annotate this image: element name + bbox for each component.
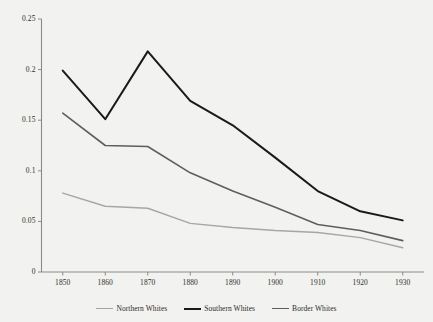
x-tick-label: 1900 [255, 278, 295, 287]
y-tick-label: 0 [0, 267, 36, 276]
legend-label: Northern Whites [116, 304, 167, 313]
chart-legend: Northern WhitesSouthern WhitesBorder Whi… [0, 304, 433, 313]
legend-swatch [96, 308, 113, 309]
x-tick-label: 1920 [340, 278, 380, 287]
x-tick-label: 1860 [85, 278, 125, 287]
x-tick-label: 1850 [43, 278, 83, 287]
series-line-border-whites [63, 113, 403, 241]
y-tick-label: 0.25 [0, 14, 36, 23]
legend-swatch [184, 308, 201, 310]
y-tick-label: 0.05 [0, 216, 36, 225]
x-tick-label: 1890 [213, 278, 253, 287]
series-line-southern-whites [63, 51, 403, 220]
legend-swatch [272, 308, 289, 309]
chart-container: 00.050.10.150.20.25 18501860187018801890… [0, 0, 433, 322]
x-tick-label: 1930 [383, 278, 423, 287]
legend-label: Southern Whites [204, 304, 255, 313]
x-tick-label: 1910 [298, 278, 338, 287]
legend-label: Border Whites [292, 304, 336, 313]
y-tick-label: 0.2 [0, 65, 36, 74]
legend-item[interactable]: Border Whites [272, 304, 336, 313]
series-line-northern-whites [63, 193, 403, 248]
y-tick-label: 0.15 [0, 115, 36, 124]
x-tick-label: 1870 [128, 278, 168, 287]
x-tick-label: 1880 [170, 278, 210, 287]
line-chart-plot [0, 0, 433, 322]
legend-item[interactable]: Northern Whites [96, 304, 167, 313]
legend-item[interactable]: Southern Whites [184, 304, 255, 313]
y-tick-label: 0.1 [0, 166, 36, 175]
